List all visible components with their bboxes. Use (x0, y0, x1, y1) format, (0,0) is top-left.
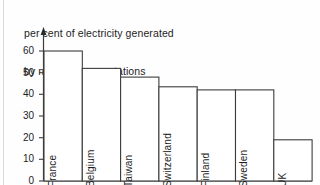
bar-label-switzerland: Switzerland (162, 133, 173, 185)
y-tick-label: 20 (12, 132, 34, 143)
bar-label-belgium: Belgium (85, 149, 96, 185)
y-tick-label: 60 (12, 45, 34, 56)
y-tick-label: 30 (12, 110, 34, 121)
y-tick-label: 10 (12, 153, 34, 164)
bar-label-sweden: Sweden (238, 150, 249, 185)
y-tick-label: 50 (12, 67, 34, 78)
up-arrow-icon (41, 27, 47, 35)
y-axis-ticks (39, 51, 44, 181)
chart-page: per cent of electricity generated by nuc… (0, 0, 320, 185)
y-tick-label: 40 (12, 88, 34, 99)
bar-label-finland: Finland (200, 153, 211, 185)
bar-label-taiwan: Taiwan (123, 155, 134, 185)
bar-label-france: France (47, 155, 58, 185)
bar-label-uk: UK (277, 173, 288, 185)
y-tick-label: 0 (12, 175, 34, 185)
